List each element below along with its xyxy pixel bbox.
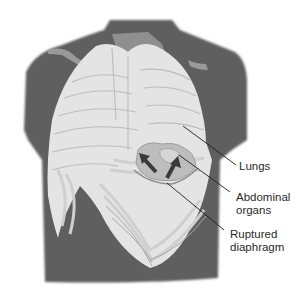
ruptured-diaphragm-label: Ruptured diaphragm bbox=[230, 228, 284, 254]
abdominal-organs-label-line1: Abdominal bbox=[236, 191, 290, 204]
lungs-label: Lungs bbox=[239, 160, 270, 173]
abdominal-organs-label-line2: organs bbox=[236, 204, 290, 217]
abdominal-organs-label: Abdominal organs bbox=[236, 191, 290, 217]
ruptured-diaphragm-label-line2: diaphragm bbox=[230, 241, 284, 254]
anatomy-diagram: Lungs Abdominal organs Ruptured diaphrag… bbox=[0, 0, 305, 294]
ruptured-diaphragm-label-line1: Ruptured bbox=[230, 228, 284, 241]
